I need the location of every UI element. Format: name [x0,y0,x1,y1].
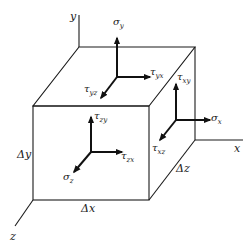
tau-yz-label: τyz [84,83,98,97]
right-face-stresses [160,84,210,140]
tau-zx-label: τzx [121,150,134,164]
sigma-x-label: σx [211,112,222,126]
tau-xy-label: τxy [177,71,191,85]
sigma-z-label: σz [63,171,74,185]
cube [33,47,195,200]
z-axis [15,200,33,226]
tau-yz-arrow [101,77,117,98]
delta-x-label: Δx [80,202,96,215]
z-axis-label: z [9,230,16,243]
delta-y-label: Δy [16,148,32,161]
cube-top-face [33,47,195,106]
sigma-y-label: σy [113,16,125,30]
y-axis-label: y [69,10,77,23]
sigma-z-arrow [74,152,91,172]
tau-xz-arrow [160,120,176,140]
tau-yx-label: τyx [150,66,164,80]
stress-element-diagram: y x z Δy Δx Δz σy τyx τyz τxy σx τxz τzy… [0,0,252,245]
x-axis-label: x [234,142,241,155]
delta-z-label: Δz [175,162,190,175]
tau-xz-label: τxz [152,142,165,156]
front-face-stresses [74,117,122,172]
tau-zy-label: τzy [94,110,108,124]
